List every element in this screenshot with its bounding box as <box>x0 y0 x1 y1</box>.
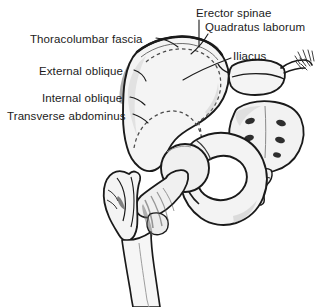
label-erector-spinae: Erector spinae <box>196 7 272 20</box>
label-transverse-abdominus: Transverse abdominus <box>7 110 126 123</box>
label-iliacus: Iliacus <box>233 50 266 63</box>
anatomy-illustration <box>0 0 323 307</box>
label-internal-oblique: Internal oblique <box>42 92 122 105</box>
label-external-oblique: External oblique <box>39 65 123 78</box>
label-quadratus-laborum: Quadratus laborum <box>205 21 305 34</box>
femoral-shaft <box>122 232 160 307</box>
anatomy-figure: Thoracolumbar fascia External oblique In… <box>0 0 323 307</box>
label-thoracolumbar-fascia: Thoracolumbar fascia <box>30 33 143 46</box>
